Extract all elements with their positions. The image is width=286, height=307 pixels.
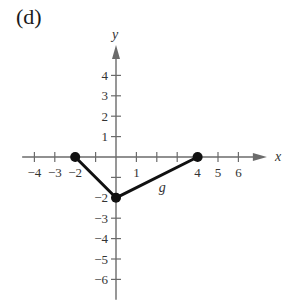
x-tick-label: 5 [215,165,222,180]
y-tick-label: 4 [102,68,109,83]
y-tick-label: −5 [94,252,108,267]
closed-point [193,152,203,162]
x-tick-label: −3 [48,165,62,180]
y-axis-label: y [110,27,119,42]
x-tick-label: 4 [194,165,201,180]
closed-point [111,193,121,203]
y-axis-arrow-icon [112,45,120,59]
x-tick-label: −4 [27,165,41,180]
x-axis-arrow-icon [253,153,267,161]
y-tick-label: 2 [102,109,109,124]
y-tick-label: 1 [102,129,109,144]
x-tick-label: −2 [68,165,82,180]
x-tick-label: 6 [235,165,242,180]
coordinate-plane: xy−4−3−21456−6−5−4−3−21234g [0,0,286,307]
y-tick-label: −4 [94,231,108,246]
y-tick-label: −2 [94,190,108,205]
y-tick-label: −3 [94,211,108,226]
x-tick-label: 1 [133,165,140,180]
y-tick-label: −6 [94,272,108,287]
x-axis-label: x [274,149,282,164]
closed-point [70,152,80,162]
y-tick-label: 3 [102,88,109,103]
function-label: g [159,180,166,195]
